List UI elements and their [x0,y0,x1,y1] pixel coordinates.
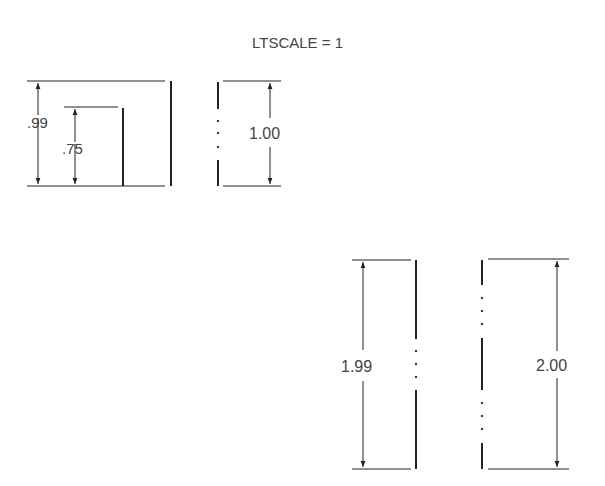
figure-1 [27,81,171,186]
dimension-label: 1.00 [249,125,280,142]
title-label: LTSCALE = 1 [252,34,343,51]
dimension-label: .99 [27,114,48,131]
dimension-label: 2.00 [536,357,567,374]
dimension-label: .75 [62,140,83,157]
drawing-canvas: LTSCALE = 1 .99 .75 1.00 [0,0,605,486]
dimension-label: 1.99 [341,358,372,375]
